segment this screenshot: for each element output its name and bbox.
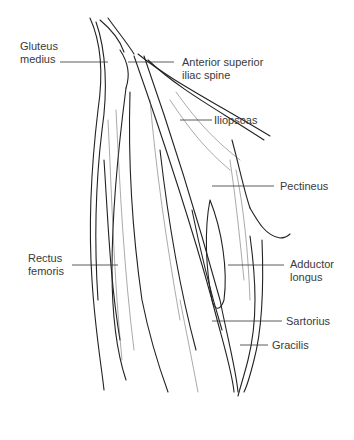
medial-thigh-outline (238, 236, 255, 396)
label-pectineus: Pectineus (280, 180, 328, 193)
label-rectus-femoris: Rectus femoris (28, 252, 64, 278)
lateral-thigh-outline (90, 18, 104, 390)
label-adductor-longus: Adductor longus (290, 258, 334, 284)
adductor-longus-outline (206, 200, 225, 308)
label-gracilis: Gracilis (272, 339, 309, 352)
label-sartorius: Sartorius (286, 315, 330, 328)
label-iliopsoas: Iliopsoas (214, 114, 257, 127)
label-gluteus-medius: Gluteus medius (20, 40, 58, 66)
thigh-muscle-illustration (0, 0, 354, 440)
label-anterior-superior-iliac-spine: Anterior superior iliac spine (182, 56, 263, 82)
